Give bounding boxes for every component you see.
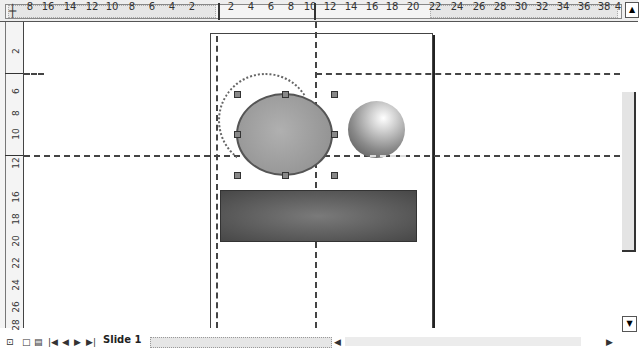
view-button-icon[interactable]: ▤ [34, 337, 43, 348]
selection-handle[interactable] [331, 91, 338, 98]
ruler-tick: 6 [144, 1, 160, 12]
ruler-tick: 24 [449, 1, 465, 12]
selection-handle[interactable] [234, 131, 241, 138]
scroll-left-button[interactable]: ◀ [334, 337, 341, 348]
last-slide-button[interactable]: ▶| [86, 337, 96, 348]
ruler-tick: 6 [11, 83, 21, 99]
view-button-icon[interactable]: □ [22, 337, 31, 348]
ruler-tick: 4 [164, 1, 180, 12]
ruler-tick: 12 [11, 155, 21, 171]
ruler-tick: 34 [555, 1, 571, 12]
selection-handle[interactable] [234, 91, 241, 98]
sphere-shape[interactable] [348, 101, 405, 158]
ruler-tick: 28 [492, 1, 508, 12]
ruler-marker [314, 3, 316, 20]
ruler-tick: 10 [11, 126, 21, 142]
ruler-tick: 14 [62, 1, 78, 12]
horizontal-ruler[interactable]: ┼ 8 16 14 12 10 8 6 4 2 2 4 6 8 10 12 14… [0, 0, 638, 22]
ruler-tick: 2 [223, 1, 239, 12]
ruler-track [5, 22, 8, 328]
view-button-icon[interactable]: ⊡ [6, 337, 14, 348]
ruler-origin-icon[interactable]: ┼ [6, 5, 19, 18]
ruler-tick: 20 [11, 233, 21, 249]
scroll-down-button[interactable]: ▼ [622, 316, 637, 332]
ruler-tick: 12 [84, 1, 100, 12]
ellipse-shape[interactable] [236, 93, 333, 176]
ruler-tick: 30 [513, 1, 529, 12]
selection-handle[interactable] [331, 172, 338, 179]
scroll-up-button[interactable]: ▲ [625, 2, 639, 18]
ruler-tick: 22 [427, 1, 443, 12]
selection-handle[interactable] [234, 172, 241, 179]
drawing-canvas[interactable] [24, 22, 620, 328]
ruler-tick: 18 [11, 211, 21, 227]
ruler-tick: 22 [11, 255, 21, 271]
guide-horizontal[interactable] [316, 73, 620, 75]
scroll-right-button[interactable]: ▶ [606, 337, 613, 348]
ruler-tick: 6 [263, 1, 279, 12]
selection-handle[interactable] [282, 172, 289, 179]
ruler-tick: 26 [471, 1, 487, 12]
guide-vertical[interactable] [216, 36, 218, 328]
ruler-tick: 36 [576, 1, 592, 12]
ruler-tick: 2 [184, 1, 200, 12]
bottom-bar: ⊡ □ ▤ |◀ ◀ ▶ ▶| Slide 1 ◀ ▶ [0, 332, 638, 354]
tab-scroll-area[interactable] [150, 337, 332, 348]
vertical-ruler[interactable]: 2 6 8 10 12 16 18 20 22 24 26 28 [0, 22, 24, 328]
vertical-scroll-thumb[interactable] [622, 92, 636, 252]
ruler-tick: 28 [11, 317, 21, 333]
guide-vertical[interactable] [315, 22, 317, 328]
ruler-tick: 4 [610, 1, 626, 12]
next-slide-button[interactable]: ▶ [74, 337, 81, 348]
ruler-tick: 18 [384, 1, 400, 12]
ruler-tick: 26 [11, 299, 21, 315]
selection-handle[interactable] [282, 91, 289, 98]
ruler-tick: 16 [40, 1, 56, 12]
ruler-tick: 4 [243, 1, 259, 12]
tab-slide-1[interactable]: Slide 1 [103, 334, 141, 345]
ruler-tick: 12 [322, 1, 338, 12]
selection-handle[interactable] [331, 131, 338, 138]
first-slide-button[interactable]: |◀ [48, 337, 58, 348]
ruler-tick: 8 [22, 1, 38, 12]
ruler-marker [218, 3, 220, 20]
ruler-tick: 8 [11, 105, 21, 121]
ruler-tick: 14 [343, 1, 359, 12]
ruler-tick: 8 [124, 1, 140, 12]
ruler-tick: 8 [283, 1, 299, 12]
ruler-tick: 32 [534, 1, 550, 12]
ruler-tick: 10 [104, 1, 120, 12]
horizontal-scrollbar[interactable] [345, 337, 581, 346]
guide-horizontal[interactable] [24, 73, 44, 75]
ruler-tick: 16 [364, 1, 380, 12]
prev-slide-button[interactable]: ◀ [62, 337, 69, 348]
ruler-tick: 2 [11, 43, 21, 59]
ruler-marker [5, 73, 23, 74]
ruler-tick: 20 [405, 1, 421, 12]
ruler-tick: 24 [11, 277, 21, 293]
vertical-scrollbar[interactable] [620, 22, 638, 332]
rectangle-shape[interactable] [220, 190, 417, 242]
ruler-tick: 16 [11, 189, 21, 205]
guide-horizontal-over-sphere [370, 155, 406, 157]
